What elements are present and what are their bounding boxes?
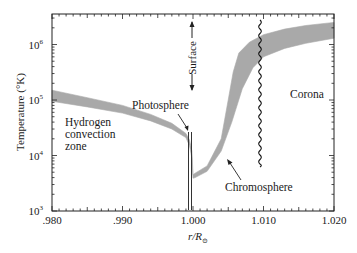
x-tick-label: .990 <box>113 214 133 226</box>
surface-marker: Surface <box>186 21 198 91</box>
x-tick-label: .980 <box>42 214 62 226</box>
chromosphere-arrow-icon <box>230 163 241 180</box>
hydrogen-label-line3: zone <box>65 140 87 152</box>
x-axis-title-main: r/R <box>188 230 202 242</box>
temperature-profile-chart: .980.9901.0001.0101.020103104105106 Surf… <box>0 0 357 253</box>
hydrogen-label-line2: convection <box>65 128 116 140</box>
y-axis-title: Temperature (°K) <box>14 73 27 151</box>
surface-label: Surface <box>186 41 198 75</box>
x-tick-label: 1.000 <box>181 214 206 226</box>
photosphere-arrowhead-icon <box>185 126 189 132</box>
arrow-up-head-icon <box>190 21 195 27</box>
y-tick-label: 104 <box>29 149 44 162</box>
photosphere-arrow-icon <box>178 114 187 128</box>
corona-label: Corona <box>290 88 324 100</box>
y-tick-label: 105 <box>29 93 44 106</box>
x-tick-label: 1.020 <box>322 214 347 226</box>
chromosphere-label: Chromosphere <box>225 181 293 194</box>
x-tick-label: 1.010 <box>251 214 276 226</box>
photosphere-label: Photosphere <box>132 99 189 112</box>
y-tick-label: 106 <box>29 38 44 51</box>
chromosphere-arrowhead-icon <box>227 159 233 165</box>
arrow-down-head-icon <box>190 85 195 91</box>
x-axis-title: r/R⊙ <box>188 230 208 245</box>
x-axis-title-subscript: ⊙ <box>202 237 208 245</box>
y-tick-label: 103 <box>29 204 44 217</box>
